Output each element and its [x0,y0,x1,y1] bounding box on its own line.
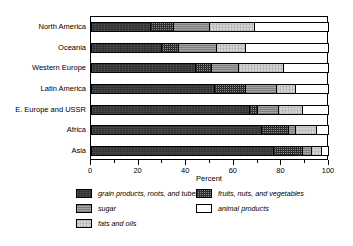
x-tick-major [138,160,139,165]
bar-segment [250,105,257,115]
bar-segment [217,43,246,53]
x-tick-major [185,160,186,165]
legend-swatch [196,204,212,213]
category-label: Latin America [41,84,86,93]
category-label: Oceania [58,43,86,52]
bar-segment [246,43,329,53]
bar-segment [162,43,179,53]
bar-segment [91,105,250,115]
x-tick-minor [209,160,210,163]
bar-segment [312,146,322,156]
bar-segment [239,63,284,73]
category-label: North America [38,22,86,31]
stacked-bar-chart: North AmericaOceaniaWestern EuropeLatin … [0,0,353,246]
bar-segment [151,22,175,32]
x-tick-major [328,160,329,165]
bar-segment [210,22,255,32]
bar-row [91,84,327,94]
category-label: Africa [67,125,86,134]
bar-segment [296,125,317,135]
bar-segment [91,84,215,94]
x-tick-major [90,160,91,165]
bar-segment [179,43,217,53]
legend-swatch [76,189,92,198]
bar-segment [246,84,277,94]
bar-segment [258,105,279,115]
bar-segment [91,146,274,156]
bar-segment [279,105,303,115]
bar-row [91,43,327,53]
bar-row [91,63,327,73]
bar-segment [91,22,151,32]
legend-swatch [196,189,212,198]
bar-segment [255,22,329,32]
bar-segment [284,63,329,73]
bar-segment [303,146,313,156]
bar-segment [289,125,296,135]
x-tick-minor [304,160,305,163]
bar-row [91,105,327,115]
legend-label: fats and oils [98,219,136,229]
legend-label: fruits, nuts, and vegetables [218,189,304,199]
legend-swatch [76,219,92,228]
bar-segment [174,22,210,32]
category-label: Asia [71,146,86,155]
x-tick-major [280,160,281,165]
bar-row [91,125,327,135]
legend-swatch [76,204,92,213]
bar-segment [262,125,288,135]
bar-row [91,146,327,156]
bar-segment [274,146,303,156]
x-tick-minor [161,160,162,163]
bar-segment [317,125,329,135]
plot-area [90,16,328,160]
bar-segment [277,84,296,94]
category-label: E. Europe and USSR [15,105,86,114]
x-tick-minor [114,160,115,163]
bar-segment [212,63,238,73]
bar-row [91,22,327,32]
legend-label: grain products, roots, and tubers [98,189,201,199]
x-axis-title: Percent [90,174,328,183]
bar-segment [303,105,329,115]
bar-segment [91,125,262,135]
bar-segment [196,63,213,73]
bar-segment [215,84,246,94]
bar-segment [91,43,162,53]
category-label: Western Europe [32,63,86,72]
legend: grain products, roots, and tuberssugarfa… [0,189,353,245]
bar-segment [322,146,329,156]
bar-segment [296,84,329,94]
bar-segment [91,63,196,73]
x-tick-major [233,160,234,165]
legend-label: sugar [98,204,116,214]
legend-label: animal products [218,204,269,214]
x-axis: 020406080100 [90,160,328,168]
category-axis-labels: North AmericaOceaniaWestern EuropeLatin … [0,16,86,160]
x-tick-minor [257,160,258,163]
